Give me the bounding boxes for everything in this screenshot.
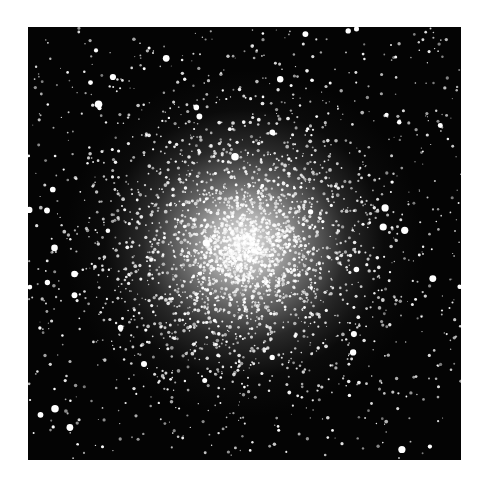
star-cluster-photo: [28, 27, 461, 460]
star-field: [28, 27, 461, 460]
